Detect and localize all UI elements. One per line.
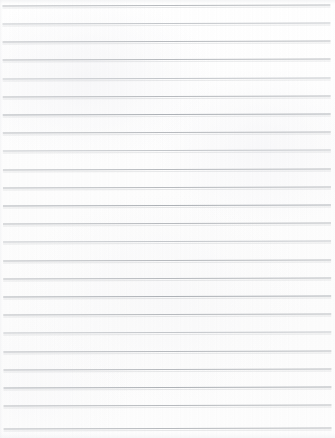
ruled-line: [3, 223, 331, 225]
ruled-line: [3, 187, 331, 189]
ruled-line: [3, 78, 331, 80]
ruled-line: [3, 369, 331, 371]
ruled-line: [3, 114, 331, 116]
ruled-lines-group: [0, 0, 335, 438]
ruled-line: [3, 387, 331, 389]
ruled-line: [3, 150, 331, 152]
lined-paper-page: [0, 0, 335, 438]
ruled-line: [3, 41, 331, 43]
ruled-line: [3, 332, 331, 334]
ruled-line: [2, 5, 330, 7]
ruled-line: [2, 23, 330, 25]
ruled-line: [4, 428, 332, 430]
ruled-line: [4, 405, 332, 407]
ruled-line: [3, 260, 331, 262]
ruled-line: [3, 169, 331, 171]
ruled-line: [3, 132, 331, 134]
ruled-line: [3, 59, 331, 61]
ruled-line: [3, 314, 331, 316]
ruled-line: [3, 205, 331, 207]
ruled-line: [3, 278, 331, 280]
ruled-line: [3, 351, 331, 353]
ruled-line: [3, 241, 331, 243]
ruled-line: [3, 96, 331, 98]
ruled-line: [3, 296, 331, 298]
